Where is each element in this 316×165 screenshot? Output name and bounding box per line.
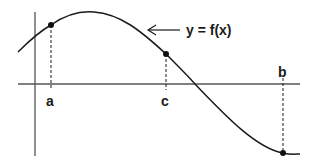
- point-c: [163, 51, 169, 57]
- point-a: [48, 22, 54, 28]
- label-a: a: [46, 93, 54, 109]
- function-diagram: y = f(x) a c b: [0, 0, 316, 165]
- label-c: c: [161, 93, 169, 109]
- point-b: [280, 150, 286, 156]
- curve-label: y = f(x): [186, 22, 232, 38]
- label-b: b: [278, 64, 287, 80]
- function-curve: [18, 12, 300, 154]
